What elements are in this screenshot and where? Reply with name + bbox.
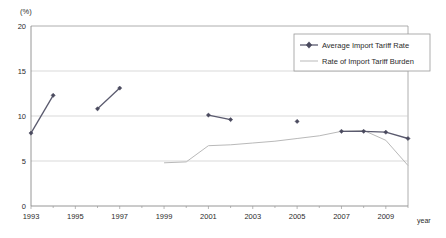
x-tick-label: 1999 — [156, 212, 173, 221]
line-chart: (%) 20 15 10 5 0 19931995199719992001200… — [0, 0, 446, 238]
data-point-marker — [295, 119, 299, 123]
series-average-import-tariff-rate — [29, 86, 410, 141]
y-gridlines — [31, 71, 408, 161]
series-line-segment — [31, 95, 53, 133]
data-point-marker — [362, 129, 366, 133]
data-point-marker — [339, 129, 343, 133]
x-tick-label: 2003 — [244, 212, 261, 221]
y-tick-label: 5 — [22, 157, 26, 166]
x-tick-label: 2005 — [289, 212, 306, 221]
x-tick-labels: 199319951997199920012003200520072009 — [23, 212, 395, 221]
x-axis-name-label: year — [417, 217, 431, 225]
legend: Average Import Tariff Rate Rate of Impor… — [294, 34, 430, 71]
y-tick-label: 20 — [18, 22, 26, 31]
series-line-segment — [164, 130, 408, 165]
legend-label-burden: Rate of Import Tariff Burden — [322, 57, 414, 66]
series-rate-of-import-tariff-burden — [164, 130, 408, 165]
y-tick-labels: 20 15 10 5 0 — [18, 22, 26, 211]
data-point-marker — [406, 136, 410, 140]
y-tick-label: 15 — [18, 67, 26, 76]
x-tick-label: 2007 — [333, 212, 350, 221]
y-tick-label: 0 — [22, 202, 26, 211]
series-line-segment — [98, 88, 120, 109]
x-tick-label: 1997 — [111, 212, 128, 221]
chart-screenshot: (%) 20 15 10 5 0 19931995199719992001200… — [0, 0, 446, 238]
data-point-marker — [206, 113, 210, 117]
data-point-marker — [228, 118, 232, 122]
data-point-marker — [384, 130, 388, 134]
x-tick-label: 1995 — [67, 212, 84, 221]
y-tick-label: 10 — [18, 112, 26, 121]
x-tick-label: 1993 — [23, 212, 40, 221]
x-tick-label: 2001 — [200, 212, 217, 221]
legend-label-tariff: Average Import Tariff Rate — [322, 41, 409, 50]
y-axis-unit-label: (%) — [20, 7, 32, 16]
x-tick-label: 2009 — [377, 212, 394, 221]
